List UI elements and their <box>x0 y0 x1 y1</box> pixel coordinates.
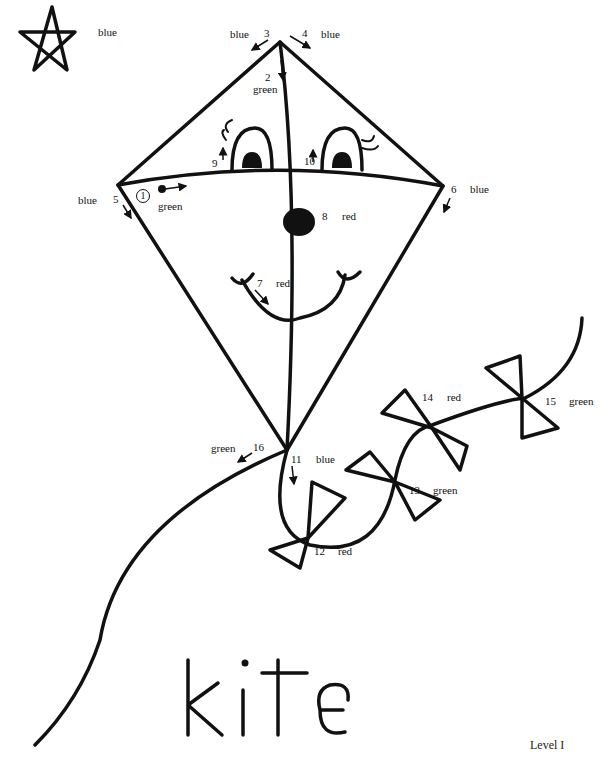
step-1-number: 1 <box>136 189 150 203</box>
step-2-number: 2 <box>265 72 271 83</box>
step-11-color: blue <box>316 454 335 465</box>
word-t <box>262 660 307 735</box>
step-5-color: blue <box>78 195 97 206</box>
step-11-number: 11 <box>291 454 302 465</box>
step-14-color: red <box>447 392 461 403</box>
word-e <box>319 685 348 733</box>
right-pupil <box>332 152 352 168</box>
step-12-number: 12 <box>314 546 325 557</box>
step-16-color: green <box>211 443 235 454</box>
step-6-color: blue <box>470 184 489 195</box>
step-13-color: green <box>433 485 457 496</box>
word-k <box>188 660 222 735</box>
step-5-number: 5 <box>113 194 119 205</box>
step-10-number: 10 <box>304 156 315 167</box>
step-9-number: 9 <box>212 158 218 169</box>
step-13-number: 13 <box>409 485 420 496</box>
legend-star-label: blue <box>98 27 117 38</box>
star-icon <box>20 7 75 70</box>
step-8-color: red <box>342 211 356 222</box>
step-3-color: blue <box>230 29 249 40</box>
step-1-color: green <box>158 201 182 212</box>
step-8-number: 8 <box>322 211 328 222</box>
step-4-number: 4 <box>302 28 308 39</box>
step-15-color: green <box>569 396 593 407</box>
step-7-number: 7 <box>257 278 263 289</box>
kite-crossbar <box>118 170 443 186</box>
kite-nose <box>283 208 315 236</box>
step-2-color: green <box>253 84 277 95</box>
step-14-number: 14 <box>422 392 433 403</box>
level-label: Level I <box>530 738 564 753</box>
left-pupil <box>242 152 262 168</box>
step-12-color: red <box>338 546 352 557</box>
step-15-number: 15 <box>545 396 556 407</box>
step-6-number: 6 <box>451 184 457 195</box>
kite-outline <box>118 42 443 450</box>
kite-spine <box>280 42 292 450</box>
step-4-color: blue <box>321 29 340 40</box>
kite-string <box>35 450 287 745</box>
step-7-color: red <box>276 278 290 289</box>
step-3-number: 3 <box>264 28 270 39</box>
kite-drawing <box>0 0 614 765</box>
step-16-number: 16 <box>253 442 264 453</box>
